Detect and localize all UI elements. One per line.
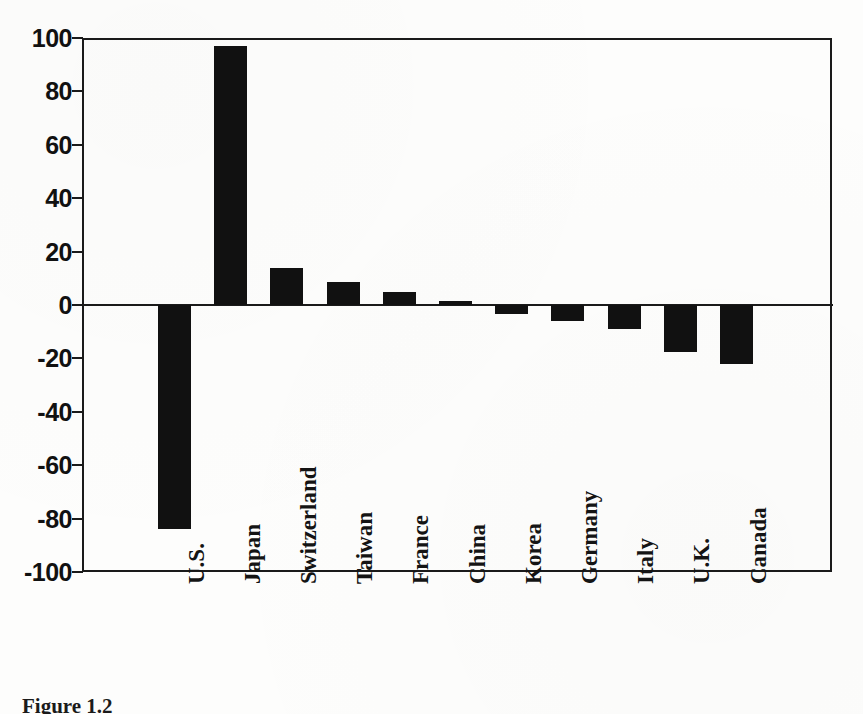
y-axis-tick <box>72 464 83 466</box>
x-axis-category-label: Korea <box>521 523 547 584</box>
x-axis-category-label: Canada <box>746 507 772 584</box>
y-axis-tick <box>72 304 83 306</box>
x-axis-category-label: Italy <box>633 538 659 584</box>
y-axis-tick <box>72 197 83 199</box>
x-axis-category-label: U.S. <box>184 543 210 584</box>
x-axis-category-label: Germany <box>577 491 603 584</box>
x-axis-labels: U.S.JapanSwitzerlandTaiwanFranceChinaKor… <box>0 0 863 714</box>
x-axis-category-label: Taiwan <box>352 512 378 584</box>
x-axis-category-label: Switzerland <box>296 466 322 584</box>
x-axis-category-label: France <box>408 515 434 584</box>
y-axis-tick <box>72 251 83 253</box>
y-axis-tick <box>72 144 83 146</box>
y-axis-tick <box>72 571 83 573</box>
y-axis-tick <box>72 90 83 92</box>
figure-caption: Figure 1.2 <box>22 694 113 714</box>
y-axis-tick <box>72 37 83 39</box>
x-axis-category-label: China <box>465 524 491 584</box>
y-axis-tick <box>72 411 83 413</box>
x-axis-category-label: U.K. <box>689 538 715 584</box>
x-axis-category-label: Japan <box>240 524 266 584</box>
figure-page: 100806040200-20-40-60-80-100 U.S.JapanSw… <box>0 0 863 714</box>
y-axis-tick <box>72 518 83 520</box>
y-axis-tick <box>72 357 83 359</box>
